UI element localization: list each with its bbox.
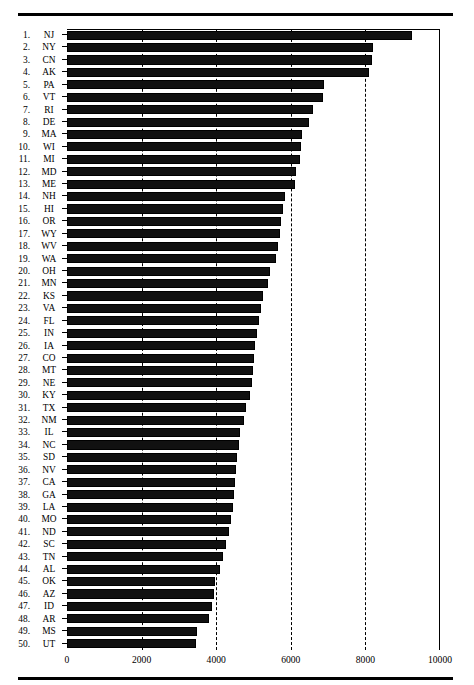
x-tick-label-0: 0 bbox=[65, 653, 70, 667]
bar-VT bbox=[67, 93, 323, 102]
state-abbreviation: VT bbox=[36, 91, 62, 103]
rank-number: 31. bbox=[18, 402, 30, 414]
rank-number: 39. bbox=[18, 501, 30, 513]
state-abbreviation: IL bbox=[36, 426, 62, 438]
table-row bbox=[67, 41, 440, 53]
rank-number: 41. bbox=[18, 526, 30, 538]
category-label-WV: 18.WV bbox=[0, 240, 62, 252]
category-label-SC: 42.SC bbox=[0, 538, 62, 550]
state-abbreviation: MO bbox=[36, 513, 62, 525]
table-row bbox=[67, 128, 440, 140]
bar-CA bbox=[67, 478, 235, 487]
top-divider-rule bbox=[18, 13, 453, 16]
bar-OK bbox=[67, 577, 215, 586]
rank-number: 30. bbox=[18, 389, 30, 401]
bar-DE bbox=[67, 118, 309, 127]
x-tick-label-8000: 8000 bbox=[356, 653, 375, 667]
table-row bbox=[67, 302, 440, 314]
bar-chart-figure: 1.NJ2.NY3.CN4.AK5.PA6.VT7.RI8.DE9.MA10.W… bbox=[0, 0, 474, 685]
table-row bbox=[67, 29, 440, 41]
category-label-KY: 30.KY bbox=[0, 389, 62, 401]
x-tick-label-6000: 6000 bbox=[281, 653, 300, 667]
rank-number: 12. bbox=[18, 166, 30, 178]
category-label-NH: 14.NH bbox=[0, 190, 62, 202]
category-label-VA: 23.VA bbox=[0, 302, 62, 314]
rank-number: 42. bbox=[18, 538, 30, 550]
table-row bbox=[67, 166, 440, 178]
category-label-ME: 13.ME bbox=[0, 178, 62, 190]
bar-HI bbox=[67, 204, 283, 213]
rank-number: 44. bbox=[18, 563, 30, 575]
table-row bbox=[67, 538, 440, 550]
category-label-CA: 37.CA bbox=[0, 476, 62, 488]
bar-WY bbox=[67, 229, 280, 238]
rank-number: 29. bbox=[18, 377, 30, 389]
category-label-MS: 49.MS bbox=[0, 625, 62, 637]
rank-number: 27. bbox=[18, 352, 30, 364]
rank-number: 1. bbox=[23, 29, 30, 41]
bar-ND bbox=[67, 527, 229, 536]
bar-FL bbox=[67, 316, 259, 325]
bar-MA bbox=[67, 130, 302, 139]
category-label-NV: 36.NV bbox=[0, 464, 62, 476]
table-row bbox=[67, 203, 440, 215]
rank-number: 17. bbox=[18, 228, 30, 240]
table-row bbox=[67, 426, 440, 438]
category-label-MN: 21.MN bbox=[0, 277, 62, 289]
category-label-OR: 16.OR bbox=[0, 215, 62, 227]
state-abbreviation: WY bbox=[36, 228, 62, 240]
category-label-AZ: 46.AZ bbox=[0, 588, 62, 600]
bar-KS bbox=[67, 291, 263, 300]
state-abbreviation: NH bbox=[36, 190, 62, 202]
state-abbreviation: MN bbox=[36, 277, 62, 289]
rank-number: 32. bbox=[18, 414, 30, 426]
table-row bbox=[67, 439, 440, 451]
category-label-NC: 34.NC bbox=[0, 439, 62, 451]
table-row bbox=[67, 638, 440, 650]
state-abbreviation: VA bbox=[36, 302, 62, 314]
category-label-MI: 11.MI bbox=[0, 153, 62, 165]
bar-WA bbox=[67, 254, 276, 263]
category-label-IA: 26.IA bbox=[0, 340, 62, 352]
bar-NC bbox=[67, 440, 239, 449]
table-row bbox=[67, 240, 440, 252]
category-label-TN: 43.TN bbox=[0, 551, 62, 563]
category-label-NM: 32.NM bbox=[0, 414, 62, 426]
state-abbreviation: NM bbox=[36, 414, 62, 426]
category-label-CO: 27.CO bbox=[0, 352, 62, 364]
category-label-ID: 47.ID bbox=[0, 600, 62, 612]
table-row bbox=[67, 190, 440, 202]
state-abbreviation: TN bbox=[36, 551, 62, 563]
category-label-AR: 48.AR bbox=[0, 613, 62, 625]
table-row bbox=[67, 228, 440, 240]
category-label-DE: 8.DE bbox=[0, 116, 62, 128]
table-row bbox=[67, 178, 440, 190]
bar-WI bbox=[67, 142, 301, 151]
category-label-FL: 24.FL bbox=[0, 315, 62, 327]
category-label-WI: 10.WI bbox=[0, 141, 62, 153]
bar-WV bbox=[67, 242, 278, 251]
category-label-ND: 41.ND bbox=[0, 526, 62, 538]
rank-number: 43. bbox=[18, 551, 30, 563]
bar-AL bbox=[67, 565, 220, 574]
bar-KY bbox=[67, 391, 250, 400]
state-abbreviation: HI bbox=[36, 203, 62, 215]
category-label-NE: 29.NE bbox=[0, 377, 62, 389]
x-tick-label-4000: 4000 bbox=[207, 653, 226, 667]
rank-number: 18. bbox=[18, 240, 30, 252]
category-label-OK: 45.OK bbox=[0, 575, 62, 587]
state-abbreviation: AZ bbox=[36, 588, 62, 600]
bar-ID bbox=[67, 602, 212, 611]
category-label-GA: 38.GA bbox=[0, 489, 62, 501]
state-abbreviation: LA bbox=[36, 501, 62, 513]
table-row bbox=[67, 389, 440, 401]
bar-MT bbox=[67, 366, 253, 375]
table-row bbox=[67, 364, 440, 376]
state-abbreviation: ME bbox=[36, 178, 62, 190]
table-row bbox=[67, 327, 440, 339]
table-row bbox=[67, 265, 440, 277]
category-label-VT: 6.VT bbox=[0, 91, 62, 103]
state-abbreviation: OK bbox=[36, 575, 62, 587]
bar-IA bbox=[67, 341, 255, 350]
state-abbreviation: AK bbox=[36, 66, 62, 78]
